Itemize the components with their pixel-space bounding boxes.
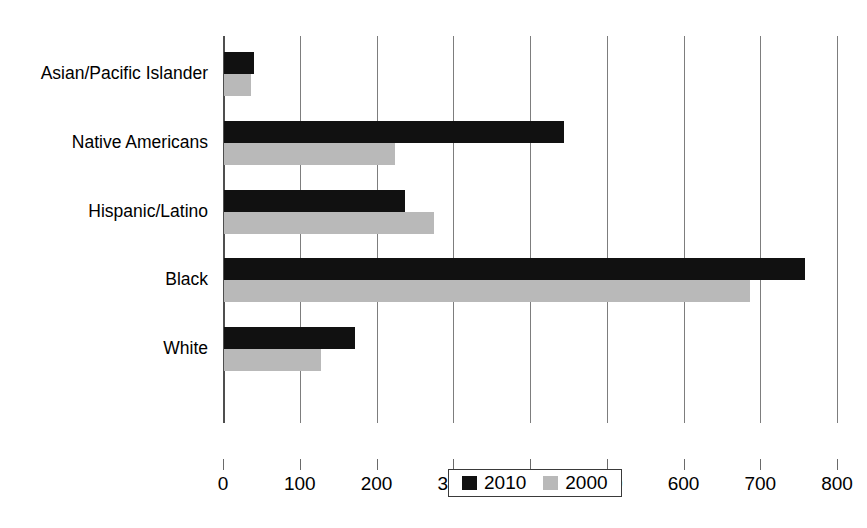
bar-2000-white [224,349,321,371]
bar-2000-native-americans [224,143,395,165]
chart-screenshot: 0100200300400500600700800 Asian/Pacific … [0,0,867,528]
gridline-600 [684,36,685,423]
gridline-500 [607,36,608,423]
x-tick-label-100: 100 [270,473,330,495]
x-tick-0 [223,459,224,470]
legend-swatch-2010-icon [462,476,477,490]
bar-2000-asian-pacific-islander [224,74,251,96]
category-label-black: Black [0,269,208,290]
x-tick-200 [377,459,378,470]
x-tick-label-200: 200 [347,473,407,495]
x-tick-label-600: 600 [654,473,714,495]
category-label-hispanic-latino: Hispanic/Latino [0,201,208,222]
category-label-native-americans: Native Americans [0,132,208,153]
gridline-400 [530,36,531,423]
x-tick-label-0: 0 [193,473,253,495]
bar-2010-white [224,327,355,349]
legend-label-2010: 2010 [484,473,526,492]
legend-item-2010: 2010 [462,473,526,492]
x-tick-800 [837,459,838,470]
legend-label-2000: 2000 [565,473,607,492]
gridline-800 [837,36,838,423]
category-label-white: White [0,338,208,359]
bar-2010-black [224,258,805,280]
bar-2010-asian-pacific-islander [224,52,254,74]
gridline-700 [760,36,761,423]
legend-item-2000: 2000 [543,473,607,492]
gridline-300 [453,36,454,423]
x-tick-label-700: 700 [730,473,790,495]
bar-2010-native-americans [224,121,564,143]
plot-area: 0100200300400500600700800 [223,36,837,423]
bar-2000-black [224,280,750,302]
bar-2000-hispanic-latino [224,212,434,234]
x-tick-label-800: 800 [807,473,867,495]
bar-2010-hispanic-latino [224,190,405,212]
x-tick-100 [300,459,301,470]
category-label-asian-pacific-islander: Asian/Pacific Islander [0,63,208,84]
chart-legend: 2010 2000 [448,469,622,497]
legend-swatch-2000-icon [543,476,558,490]
x-tick-700 [760,459,761,470]
clipped-title-artifact [392,0,592,5]
x-tick-600 [684,459,685,470]
